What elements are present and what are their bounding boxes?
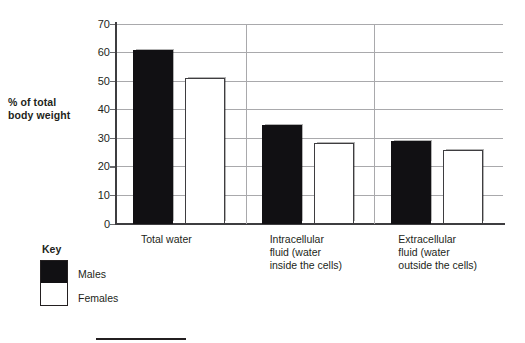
y-axis-tick-label: 60 — [84, 46, 110, 58]
y-axis-tick: 30 — [82, 132, 110, 144]
y-axis-tick: 50 — [82, 75, 110, 87]
y-axis-tick: 40 — [82, 103, 110, 115]
y-axis-tick-label: 30 — [84, 132, 110, 144]
y-axis-tick-label: 50 — [84, 75, 110, 87]
y-axis-tick-label: 40 — [84, 103, 110, 115]
legend-swatch-females — [41, 283, 67, 305]
y-axis-tick-label: 70 — [84, 18, 110, 30]
category-label-line: outside the cells) — [398, 259, 511, 272]
bottom-rule — [96, 338, 186, 340]
category-label-line: Total water — [141, 233, 254, 246]
category-label-line: fluid (water — [270, 246, 383, 259]
legend-title: Key — [42, 243, 156, 255]
bars-layer — [117, 24, 503, 224]
legend-swatch-males — [41, 261, 67, 283]
bar-males — [391, 141, 431, 224]
bar-chart-figure: % of total body weight 010203040506070 T… — [0, 0, 525, 343]
bar-females — [314, 143, 354, 224]
y-axis-tick: 70 — [82, 18, 110, 30]
y-axis-tick: 0 — [82, 218, 110, 230]
y-axis-tick-label: 20 — [84, 160, 110, 172]
y-axis-tick: 60 — [82, 46, 110, 58]
category-label-line: Extracellular — [398, 233, 511, 246]
x-axis-category-label: Total water — [141, 233, 254, 246]
bar-females — [185, 78, 225, 224]
y-axis-tick: 20 — [82, 160, 110, 172]
bar-females — [443, 150, 483, 224]
x-axis-category-label: Extracellularfluid (wateroutside the cel… — [398, 233, 511, 272]
legend-label-males: Males — [78, 268, 106, 280]
category-label-line: Intracellular — [270, 233, 383, 246]
category-label-line: fluid (water — [398, 246, 511, 259]
x-axis-category-label: Intracellularfluid (waterinside the cell… — [270, 233, 383, 272]
y-axis-tick: 10 — [82, 189, 110, 201]
category-label-line: inside the cells) — [270, 259, 383, 272]
bar-males — [262, 125, 302, 224]
legend-swatch-group — [40, 260, 68, 306]
legend-label-females: Females — [78, 292, 118, 304]
y-axis-tick-label: 10 — [84, 189, 110, 201]
y-axis-tick-label: 0 — [84, 218, 110, 230]
bar-males — [133, 50, 173, 224]
legend: Key Males Females — [26, 243, 156, 258]
